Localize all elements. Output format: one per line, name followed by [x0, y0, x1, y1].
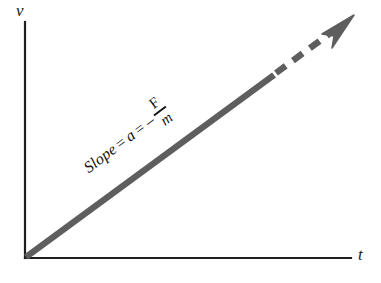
x-axis-label: t: [358, 246, 363, 263]
arrow-head-icon: [322, 15, 354, 48]
velocity-time-graph-figure: v t Slope=a=– F m: [0, 0, 381, 283]
y-axis-label: v: [16, 2, 24, 19]
velocity-line-dashed: [276, 29, 336, 73]
graph-canvas: [0, 0, 381, 283]
